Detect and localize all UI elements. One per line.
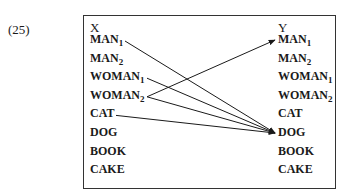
mapping-arrows [0, 0, 340, 194]
arrow-woman2-to-dog [147, 97, 275, 133]
arrow-woman1-to-dog [147, 78, 275, 133]
arrow-woman2-to-man1 [147, 40, 275, 97]
